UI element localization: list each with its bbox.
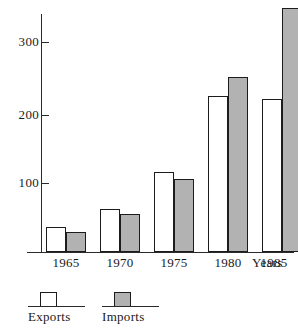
x-tick-label-1965: 1965 — [40, 255, 92, 270]
y-axis-line — [41, 14, 42, 253]
bar-group-1965 — [46, 12, 90, 252]
bar-slot-exports-1970 — [100, 12, 120, 252]
bar-group-1985 — [217, 12, 261, 252]
bar-imports-1975[interactable] — [174, 179, 194, 252]
legend-swatch-imports-icon — [114, 292, 131, 306]
bar-group-1975 — [154, 12, 198, 252]
y-tick-label-100: 100 — [0, 176, 39, 189]
bar-slot-imports-1970 — [120, 12, 140, 252]
legend-label-exports: Exports — [28, 309, 71, 324]
bar-imports-1965[interactable] — [66, 232, 86, 252]
x-tick-label-1980: 1980 — [202, 255, 254, 270]
bar-group-1970 — [100, 12, 144, 252]
x-axis-line — [27, 252, 294, 253]
x-axis-title: Years — [252, 255, 283, 270]
bar-slot-exports-1965 — [46, 12, 66, 252]
legend-label-imports: Imports — [102, 309, 145, 324]
bar-slot-imports-1975 — [174, 12, 194, 252]
plot-area: 300 200 100 — [0, 0, 298, 262]
legend-item-exports[interactable]: Exports — [28, 292, 102, 332]
y-tick-label-300: 300 — [0, 35, 39, 48]
bar-exports-1975[interactable] — [154, 172, 174, 253]
bar-chart: 300 200 100 — [0, 0, 298, 332]
bar-slot-imports-1965 — [66, 12, 86, 252]
legend-rule-exports — [28, 306, 85, 307]
bar-exports-1985[interactable] — [262, 99, 282, 252]
x-tick-label-1975: 1975 — [148, 255, 200, 270]
bar-slot-exports-1985 — [262, 12, 282, 252]
bar-exports-1965[interactable] — [46, 227, 66, 252]
bar-imports-1970[interactable] — [120, 214, 140, 252]
chart-legend: Exports Imports — [28, 292, 208, 332]
bar-slot-exports-1975 — [154, 12, 174, 252]
x-tick-label-1970: 1970 — [94, 255, 146, 270]
bar-imports-1985[interactable] — [282, 8, 298, 252]
bar-exports-1970[interactable] — [100, 209, 120, 252]
bar-slot-imports-1985 — [282, 12, 298, 252]
legend-swatch-exports-icon — [40, 292, 57, 306]
legend-rule-imports — [102, 306, 159, 307]
y-tick-label-200: 200 — [0, 108, 39, 121]
legend-item-imports[interactable]: Imports — [102, 292, 176, 332]
